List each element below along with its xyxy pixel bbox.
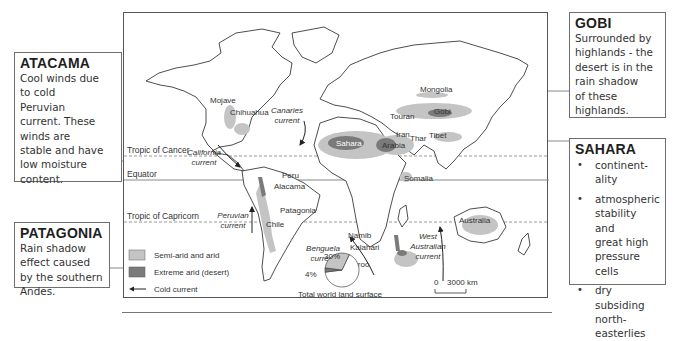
text-line: easterlies (595, 327, 646, 339)
label-california-current-1: California (187, 148, 221, 157)
label-touran: Touran (390, 112, 414, 121)
label-mojave: Mojave (210, 96, 236, 105)
label-west-australian-current-3: current (416, 252, 442, 261)
world-map: Tropic of Cancer Equator Tropic of Capri… (123, 12, 548, 298)
greenland-outline (292, 27, 339, 63)
pie-title: Total world land surface (298, 290, 383, 299)
label-equator: Equator (127, 169, 157, 179)
label-chihuahua: Chihuahua (230, 108, 269, 117)
label-tropic-of-capricorn: Tropic of Capricorn (127, 211, 199, 221)
legend-swatch-semi-arid (129, 250, 145, 260)
label-peru: Peru (282, 171, 299, 180)
label-west-australian-current-1: West (419, 232, 438, 241)
legend-swatch-extreme-arid (129, 267, 145, 277)
madagascar-outline (398, 205, 408, 227)
label-thar: Thar (410, 134, 427, 143)
legend-label-extreme-arid: Extreme arid (desert) (154, 268, 229, 277)
extreme-arid-namib (394, 235, 400, 251)
legend-label-cold-current: Cold current (154, 285, 198, 294)
legend: Semi-arid and arid Extreme arid (desert)… (129, 250, 229, 294)
label-chile: Chile (266, 220, 285, 229)
pie-label-4: 4% (305, 270, 317, 279)
label-australia: Australia (459, 216, 491, 225)
west-australian-current-arrow (440, 227, 443, 281)
label-west-australian-current-2: Australian (409, 242, 446, 251)
scale-bar: 0 3000 km (434, 278, 478, 293)
label-tibet: Tibet (429, 131, 447, 140)
label-tropic-of-cancer: Tropic of Cancer (127, 145, 190, 155)
canaries-current-arrow (300, 121, 305, 145)
semi-arid-chihuahua (234, 123, 250, 135)
label-sahara: Sahara (336, 139, 362, 148)
label-patagonia: Patagonia (280, 206, 317, 215)
label-somalia: Somalia (404, 174, 433, 183)
label-namib: Namib (348, 231, 372, 240)
label-gobi: Gobi (434, 107, 451, 116)
label-atacama: Alacama (274, 182, 306, 191)
legend-arrowhead-icon (129, 287, 134, 292)
scale-start-label: 0 (434, 278, 439, 287)
label-california-current-2: current (192, 158, 218, 167)
label-peruvian-current-2: current (221, 221, 247, 230)
map-svg: Tropic of Cancer Equator Tropic of Capri… (124, 13, 549, 299)
label-kalahari: Kalahari (350, 243, 380, 252)
label-peruvian-current-1: Peruvian (217, 211, 249, 220)
label-canaries-current-1: Canaries (271, 106, 303, 115)
scale-bar-line (435, 289, 466, 293)
label-iran: Iran (396, 130, 410, 139)
label-mongolia: Mongolia (420, 85, 453, 94)
bottom-divider (122, 312, 552, 313)
label-canaries-current-2: current (275, 116, 301, 125)
label-arabia: Arabia (382, 141, 406, 150)
new-zealand-outline (518, 233, 530, 255)
pie-label-30: 30% (324, 252, 340, 261)
scale-end-label: 3000 km (447, 278, 478, 287)
legend-label-semi-arid: Semi-arid and arid (154, 251, 219, 260)
